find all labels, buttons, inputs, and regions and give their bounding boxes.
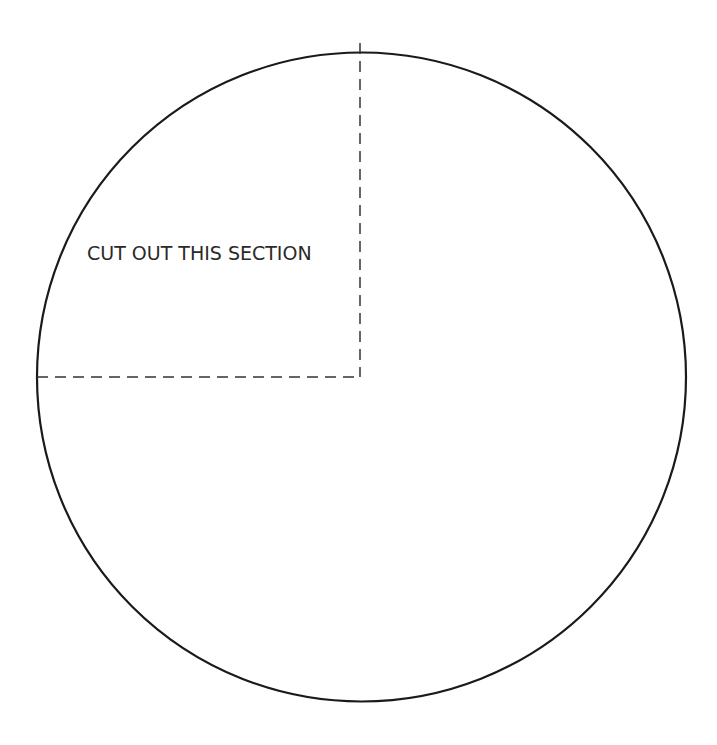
cut-out-label: CUT OUT THIS SECTION <box>87 242 312 264</box>
circle-template-diagram: CUT OUT THIS SECTION <box>0 0 717 745</box>
